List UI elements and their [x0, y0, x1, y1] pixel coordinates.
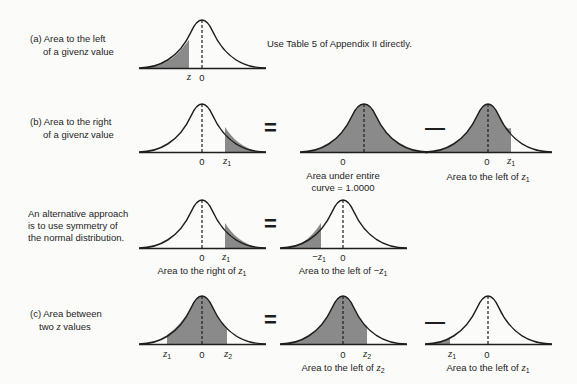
- row-a-label: (a) Area to the left of a givenz value: [30, 33, 114, 58]
- caption-right-of-z1: Area to the right of z1: [158, 264, 247, 280]
- tick-zero: 0: [340, 252, 345, 263]
- curve-a-left-of-z: [139, 18, 266, 70]
- tick-neg-z1: −z1: [312, 251, 326, 265]
- curve-b-right-of-z1: [139, 102, 266, 154]
- alt-label: An alternative approach is to use symmet…: [28, 208, 128, 244]
- equals-sign: =: [264, 117, 277, 139]
- row-c-label: (c) Area between two z values: [30, 308, 102, 333]
- caption-line2: curve = 1.0000: [306, 182, 379, 194]
- tick-zero: 0: [340, 156, 345, 167]
- tick-zero: 0: [199, 349, 204, 360]
- row-c-label-line2: two z values: [30, 320, 102, 333]
- row-b-label: (b) Area to the right of a givenz value: [30, 116, 114, 141]
- tick-z1: z1: [223, 155, 231, 169]
- caption-left-of-z1: Area to the left of z1: [446, 361, 529, 377]
- caption-line1: Area under entire: [306, 170, 379, 182]
- tick-z1: z1: [222, 251, 230, 265]
- tick-z1: z1: [507, 155, 515, 169]
- equals-sign: =: [264, 309, 277, 331]
- tick-z1: z1: [163, 348, 171, 362]
- curve-alt-left-of-neg-z1: [280, 198, 407, 250]
- tick-zero: 0: [484, 156, 489, 167]
- row-b-label-line1: (b) Area to the right: [30, 116, 114, 128]
- row-c-label-line1: (c) Area between: [30, 308, 102, 320]
- curve-c-left-of-z1: [425, 294, 552, 346]
- tick-z2: z2: [363, 348, 371, 362]
- row-a-label-line2: of a givenz value: [30, 45, 114, 58]
- caption-left-of-z1: Area to the left of z1: [446, 170, 529, 186]
- tick-z2: z2: [224, 348, 232, 362]
- tick-zero: 0: [199, 252, 204, 263]
- curve-c-between-z1-z2: [139, 294, 266, 346]
- caption-left-of-z2: Area to the left of z2: [301, 361, 384, 377]
- tick-zero: 0: [340, 349, 345, 360]
- curve-b-left-of-z1: [425, 102, 552, 154]
- tick-zero: 0: [199, 72, 204, 83]
- alt-label-line1: An alternative approach: [28, 208, 128, 220]
- row-a-label-line1: (a) Area to the left: [30, 33, 114, 45]
- alt-label-line2: is to use symmetry of: [28, 220, 128, 232]
- curve-c-left-of-z2: [280, 294, 407, 346]
- curve-alt-right-of-z1: [139, 198, 266, 250]
- alt-label-line3: the normal distribution.: [28, 232, 128, 244]
- equals-sign: =: [264, 213, 277, 235]
- curve-b-entire-area: [300, 102, 428, 154]
- tick-z: z: [187, 71, 191, 82]
- row-a-note: Use Table 5 of Appendix II directly.: [267, 38, 412, 50]
- tick-z1: z1: [448, 348, 456, 362]
- caption-entire-area: Area under entire curve = 1.0000: [306, 170, 379, 194]
- tick-zero: 0: [484, 349, 489, 360]
- row-b-label-line2: of a givenz value: [30, 128, 114, 141]
- tick-zero: 0: [199, 156, 204, 167]
- caption-left-of-neg-z1: Area to the left of −z1: [299, 264, 388, 280]
